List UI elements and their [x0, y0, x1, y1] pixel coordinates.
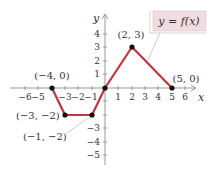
- x-tick-label: 1: [115, 92, 121, 102]
- function-graph: −6 −5 −3 −2 −1 1 2 3 4 5 6 4 3 2 1 −3 −4…: [0, 0, 213, 175]
- data-points: [49, 44, 174, 117]
- point-neg3-neg2: [62, 112, 67, 117]
- y-axis-label: y: [92, 12, 100, 25]
- x-tick-label: 4: [155, 92, 161, 102]
- x-tick-label: −3: [58, 92, 72, 102]
- x-tick-label: 3: [142, 92, 148, 102]
- point-5-0: [169, 85, 174, 90]
- legend-label: y = f(x): [157, 15, 199, 28]
- annotation-5-0: (5, 0): [173, 73, 200, 84]
- point-neg1-neg2: [89, 112, 94, 117]
- annotation-leader-line: [66, 117, 89, 134]
- function-line: [52, 47, 172, 115]
- y-tick-label: −3: [87, 123, 101, 133]
- annotation-2-3: (2, 3): [118, 29, 145, 40]
- x-tick-label: 2: [129, 92, 135, 102]
- x-tick-label: −2: [71, 92, 84, 102]
- y-tick-label: 2: [94, 56, 100, 66]
- point-neg4-0: [49, 85, 54, 90]
- legend-leader-line: [148, 33, 160, 60]
- y-tick-label: 1: [94, 69, 100, 79]
- y-tick-label: 4: [94, 29, 100, 39]
- y-tick-label: −4: [87, 137, 101, 147]
- point-origin: [102, 85, 107, 90]
- x-tick-label: −6: [18, 92, 32, 102]
- annotation-neg1-neg2: (−1, −2): [23, 131, 67, 142]
- y-tick-label: −5: [87, 150, 101, 160]
- x-tick-label: 6: [182, 92, 188, 102]
- annotation-neg3-neg2: (−3, −2): [16, 110, 60, 121]
- point-2-3: [129, 44, 134, 49]
- y-tick-label: 3: [94, 42, 100, 52]
- x-axis-label: x: [198, 91, 205, 104]
- x-tick-label: −1: [84, 92, 97, 102]
- annotation-neg4-0: (−4, 0): [34, 70, 69, 81]
- x-tick-label: −5: [31, 92, 45, 102]
- x-tick-label: 5: [169, 92, 175, 102]
